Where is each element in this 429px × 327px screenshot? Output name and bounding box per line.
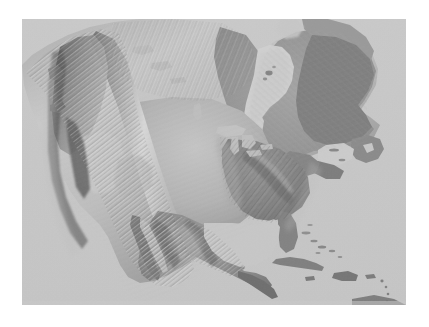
relief-map-image — [22, 19, 406, 305]
bottom-edge-band — [22, 301, 406, 305]
screenshot-root: North America Shaded Relief — [0, 0, 429, 327]
image-grain-overlay — [22, 19, 406, 305]
relief-map-svg — [22, 19, 406, 305]
